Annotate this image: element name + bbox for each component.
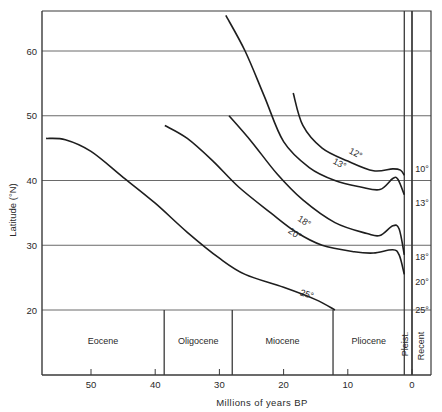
- y-axis-label: Latitude (°N): [7, 183, 18, 236]
- epoch-label-recent: Recent: [416, 331, 426, 360]
- x-tick-50: 50: [86, 379, 97, 390]
- recent-label-20: 20°: [415, 277, 429, 287]
- isotherm-latitude-chart: EoceneOligoceneMiocenePliocenePleist.Rec…: [0, 0, 442, 412]
- recent-isotherm-labels: 10°13°18°20°25°: [415, 164, 429, 315]
- y-axis-ticks: 2030405060: [26, 46, 37, 316]
- isotherm-25-curve: [46, 138, 335, 310]
- y-tick-40: 40: [26, 175, 37, 186]
- x-axis-label: Millions of years BP: [216, 397, 307, 408]
- frame-top-right: [42, 11, 431, 375]
- epoch-label-eocene: Eocene: [88, 336, 119, 346]
- isotherm-labels: 12°13°18°20°25°: [286, 146, 364, 302]
- y-tick-50: 50: [26, 110, 37, 121]
- y-tick-60: 60: [26, 46, 37, 57]
- epoch-label-pleist: Pleist.: [400, 332, 410, 357]
- x-tick-30: 30: [214, 379, 225, 390]
- recent-label-13: 13°: [415, 198, 429, 208]
- isotherm-label-12: 12°: [347, 146, 364, 161]
- recent-label-18: 18°: [415, 252, 429, 262]
- isotherm-label-18: 18°: [296, 213, 313, 229]
- y-tick-20: 20: [26, 305, 37, 316]
- x-tick-0: 0: [409, 379, 414, 390]
- x-tick-40: 40: [150, 379, 161, 390]
- y-tick-30: 30: [26, 240, 37, 251]
- plot-frame: [42, 11, 431, 375]
- isotherm-18-curve: [229, 116, 404, 255]
- recent-label-25: 25°: [415, 305, 429, 315]
- x-tick-10: 10: [343, 379, 354, 390]
- x-tick-20: 20: [278, 379, 289, 390]
- isotherm-curves: [46, 15, 404, 310]
- epoch-label-miocene: Miocene: [266, 336, 300, 346]
- epoch-label-oligocene: Oligocene: [178, 336, 219, 346]
- epoch-label-pliocene: Pliocene: [351, 336, 386, 346]
- x-axis-ticks: 50403020100: [86, 369, 415, 390]
- isotherm-label-13: 13°: [331, 156, 348, 171]
- epoch-panel: EoceneOligoceneMiocenePliocenePleist.Rec…: [88, 11, 426, 375]
- isotherm-12-curve: [293, 93, 404, 175]
- recent-label-10: 10°: [415, 164, 429, 174]
- isotherm-13-curve: [226, 15, 404, 194]
- gridlines: [42, 51, 431, 310]
- isotherm-20-curve: [165, 125, 404, 274]
